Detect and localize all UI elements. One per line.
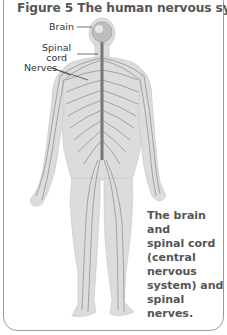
figure-caption: The brain and spinal cord (central nervo… <box>147 209 227 321</box>
caption-line: system) and <box>147 279 227 293</box>
caption-line: spinal nerves. <box>147 293 227 321</box>
brain-label: Brain <box>49 22 74 32</box>
spinal-cord-label: Spinal cord <box>42 43 71 63</box>
caption-line: (central <box>147 251 227 265</box>
nerves-label: Nerves <box>24 63 57 73</box>
caption-line: The brain and <box>147 209 227 237</box>
caption-line: spinal cord <box>147 237 227 251</box>
caption-line: nervous <box>147 265 227 279</box>
